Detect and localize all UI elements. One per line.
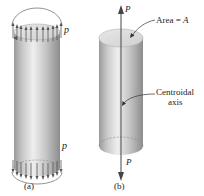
axial-loading-figure: p p (a) P P Area = A Centroidal axis (b) <box>0 0 204 196</box>
force-label-bottom: P <box>126 158 132 167</box>
force-arrow-up-icon <box>118 5 124 14</box>
force-label-top: P <box>125 5 131 14</box>
centroidal-axis-label-line1: Centroidal <box>156 88 194 97</box>
panel-b-caption: (b) <box>114 182 125 191</box>
panel-a-load-label-bottom: p <box>62 141 67 151</box>
panel-a-load-label-top: p <box>64 25 69 35</box>
centroidal-axis-label-line2: axis <box>168 98 183 107</box>
panel-a-caption: (a) <box>24 182 34 191</box>
area-label-text: Area = A <box>156 15 189 25</box>
force-arrow-down-icon <box>118 172 124 181</box>
area-label: Area = A <box>156 16 189 25</box>
